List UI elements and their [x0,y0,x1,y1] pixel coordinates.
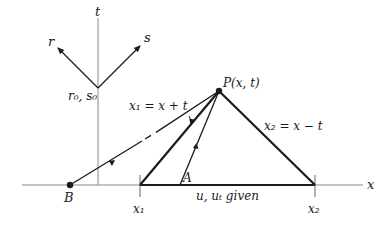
line-x1-label: x₁ = x + t [129,99,188,113]
x1-tick-label: x₁ [133,202,145,216]
point-P [216,88,222,94]
origin-label: r₀, s₀ [68,89,97,103]
r-label: r [48,34,55,49]
arrow-B-P [109,160,115,166]
x2-tick-label: x₂ [308,202,320,216]
point-B-label: B [63,190,74,205]
point-P-label: P(x, t) [222,76,260,90]
characteristics-diagram: t x r s r₀, s₀ P(x, t) A B x₁ = x + t x₂… [0,0,390,228]
x-axis-label: x [367,177,375,192]
line-B-P-lower [70,141,142,185]
line-x2 [219,91,315,185]
line-B-P-dash [145,135,151,139]
s-label: s [144,30,151,45]
point-B [67,182,73,188]
point-A-label: A [182,171,192,185]
r-arrow [58,48,98,88]
base-label: u, uₜ given [196,189,259,203]
line-x2-label: x₂ = x − t [264,119,323,133]
t-axis-label: t [95,4,101,19]
s-arrow [98,46,140,88]
